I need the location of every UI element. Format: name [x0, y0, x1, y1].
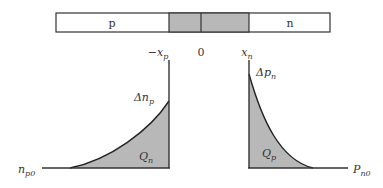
position-labels: −xp 0 xn	[148, 46, 253, 61]
junction-bar: p n	[56, 13, 330, 32]
right-plot: Δpn Qp Pn0	[248, 60, 371, 178]
pn-junction-diagram: p n −xp 0 xn Δnp Qn np0 Δpn Qp Pn0	[0, 0, 383, 188]
minus-xp-label: −xp	[148, 46, 169, 61]
p-region-label: p	[108, 17, 115, 30]
zero-label: 0	[198, 46, 205, 59]
qn-shaded-area	[70, 101, 169, 168]
n-region-label: n	[286, 17, 293, 30]
xn-label: xn	[241, 46, 252, 61]
pn0-label: Pn0	[352, 163, 371, 178]
qp-shaded-area	[249, 74, 313, 168]
delta-pn-label: Δpn	[255, 66, 276, 81]
depletion-region	[169, 13, 249, 32]
left-plot: Δnp Qn np0	[18, 60, 170, 178]
np0-label: np0	[18, 163, 35, 178]
delta-np-label: Δnp	[133, 91, 154, 106]
